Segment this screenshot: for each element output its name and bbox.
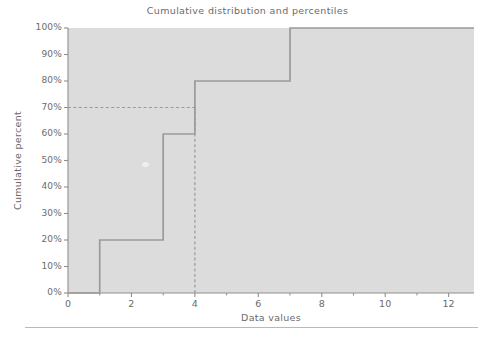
x-tick-label-12: 12 [434,298,464,309]
plot-background [68,28,474,293]
y-tick-label-50%: 50% [18,155,62,165]
x-tick-label-6: 6 [243,298,273,309]
scan-artifact-speck [142,162,149,167]
y-tick-label-30%: 30% [18,208,62,218]
y-tick-label-100%: 100% [18,22,62,32]
chart-figure: Cumulative distribution and percentiles … [0,0,495,339]
y-tick-label-90%: 90% [18,49,62,59]
y-tick-label-60%: 60% [18,128,62,138]
y-tick-label-20%: 20% [18,234,62,244]
x-tick-label-4: 4 [180,298,210,309]
x-tick-label-10: 10 [370,298,400,309]
plot-canvas [0,0,495,339]
page-bottom-rule [25,327,478,328]
y-tick-label-70%: 70% [18,102,62,112]
y-tick-label-40%: 40% [18,181,62,191]
x-tick-label-0: 0 [53,298,83,309]
y-tick-label-80%: 80% [18,75,62,85]
x-tick-label-2: 2 [116,298,146,309]
y-tick-label-0%: 0% [18,287,62,297]
y-tick-label-10%: 10% [18,261,62,271]
x-tick-label-8: 8 [307,298,337,309]
